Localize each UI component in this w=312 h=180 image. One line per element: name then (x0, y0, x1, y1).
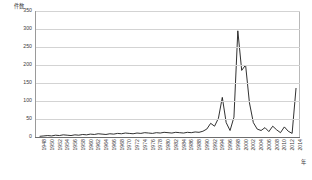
x-axis-tick-label: 1964 (104, 139, 109, 151)
y-axis-tick-label: 200 (23, 62, 32, 67)
gridline (36, 83, 300, 84)
y-axis-tick-label: 300 (23, 26, 32, 31)
x-axis-tick-label: 1974 (143, 139, 148, 151)
y-axis-tick-label: 250 (23, 44, 32, 49)
chart-container: 件数 050100150200250300350 194819501952195… (0, 0, 312, 180)
x-axis-tick-label: 1972 (135, 139, 140, 151)
x-axis-tick-label: 1956 (73, 139, 78, 151)
y-axis-tick-label: 100 (23, 98, 32, 103)
x-axis-tick-label: 1952 (58, 139, 63, 151)
y-axis-tick-labels: 050100150200250300350 (0, 0, 32, 180)
x-axis-tick-label: 2012 (290, 139, 295, 151)
plot-area (36, 11, 300, 137)
x-axis-tick-label: 1950 (50, 139, 55, 151)
x-axis-tick-label: 1978 (158, 139, 163, 151)
gridline (36, 101, 300, 102)
x-axis-tick-label: 1998 (236, 139, 241, 151)
x-axis-tick-label: 1984 (182, 139, 187, 151)
x-axis-tick-label: 1988 (197, 139, 202, 151)
x-axis-tick-label: 2014 (298, 139, 303, 151)
x-axis-tick-label: 1966 (112, 139, 117, 151)
x-axis-tick-label: 1968 (120, 139, 125, 151)
x-axis-tick-label: 1970 (127, 139, 132, 151)
x-axis-tick-label: 2000 (244, 139, 249, 151)
x-axis-tick-label: 1980 (166, 139, 171, 151)
x-axis-tick-label: 1982 (174, 139, 179, 151)
x-axis-tick-label: 2006 (267, 139, 272, 151)
gridline (36, 65, 300, 66)
x-axis-tick-label: 2008 (275, 139, 280, 151)
y-axis-tick-label: 150 (23, 80, 32, 85)
x-axis-tick-label: 1976 (151, 139, 156, 151)
x-axis-tick-label: 1994 (220, 139, 225, 151)
gridline (36, 29, 300, 30)
y-axis-tick-label: 50 (26, 116, 32, 121)
x-axis-tick-label: 1990 (205, 139, 210, 151)
x-axis-tick-label: 1962 (96, 139, 101, 151)
y-axis-tick-label: 0 (29, 134, 32, 139)
x-axis-tick-label: 1960 (89, 139, 94, 151)
x-axis-tick-label: 1948 (42, 139, 47, 151)
x-axis-tick-label: 1996 (228, 139, 233, 151)
x-axis-tick-label: 2004 (259, 139, 264, 151)
x-axis-tick-label: 1958 (81, 139, 86, 151)
x-axis-tick-label: 1954 (65, 139, 70, 151)
x-axis-tick-label: 2010 (282, 139, 287, 151)
x-axis-tick-label: 1986 (189, 139, 194, 151)
gridline (36, 119, 300, 120)
x-axis-title: 年 (301, 160, 306, 165)
gridline (36, 11, 300, 12)
x-axis-tick-labels: 1948195019521954195619581960196219641966… (36, 139, 300, 177)
x-axis-tick-label: 2002 (251, 139, 256, 151)
gridline (36, 47, 300, 48)
y-axis-tick-label: 350 (23, 8, 32, 13)
x-axis-tick-label: 1992 (213, 139, 218, 151)
